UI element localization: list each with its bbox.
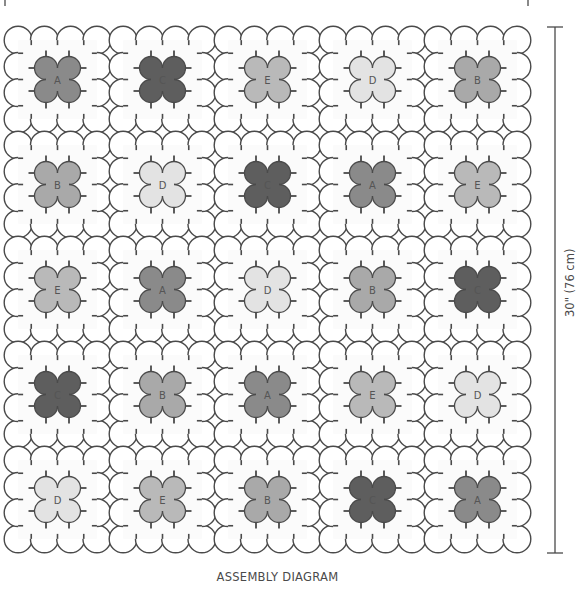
block-letter: C <box>264 180 271 191</box>
block-letter: C <box>54 390 61 401</box>
block-letter: B <box>159 390 166 401</box>
quilt-block-d: D <box>214 236 321 343</box>
block-letter: A <box>54 75 61 86</box>
quilt-block-c: C <box>214 131 321 238</box>
quilt-block-b: B <box>214 446 321 553</box>
block-letter: A <box>264 390 271 401</box>
quilt-block-e: E <box>214 26 321 133</box>
quilt-block-b: B <box>4 131 111 238</box>
block-letter: E <box>159 495 165 506</box>
quilt-block-c: C <box>319 446 426 553</box>
block-letter: D <box>264 285 272 296</box>
quilt-block-c: C <box>4 341 111 448</box>
quilt-block-e: E <box>424 131 531 238</box>
quilt-block-c: C <box>109 26 216 133</box>
block-letter: C <box>474 285 481 296</box>
quilt-block-e: E <box>319 341 426 448</box>
block-letter: B <box>54 180 61 191</box>
quilt-block-e: E <box>4 236 111 343</box>
quilt-block-d: D <box>424 341 531 448</box>
quilt-block-c: C <box>424 236 531 343</box>
block-letter: B <box>264 495 271 506</box>
quilt-block-b: B <box>319 236 426 343</box>
block-letter: B <box>369 285 376 296</box>
block-letter: D <box>54 495 62 506</box>
block-letter: E <box>264 75 270 86</box>
block-letter: D <box>159 180 167 191</box>
block-letter: D <box>474 390 482 401</box>
block-letter: E <box>474 180 480 191</box>
block-letter: E <box>369 390 375 401</box>
quilt-block-a: A <box>424 446 531 553</box>
block-letter: E <box>54 285 60 296</box>
assembly-diagram: ACEDBBDCAEEADBCCBAEDDEBCA <box>0 0 581 590</box>
quilt-block-a: A <box>109 236 216 343</box>
quilt-block-d: D <box>319 26 426 133</box>
quilt-block-b: B <box>109 341 216 448</box>
quilt-block-b: B <box>424 26 531 133</box>
block-letter: D <box>369 75 377 86</box>
quilt-block-e: E <box>109 446 216 553</box>
block-letter: A <box>369 180 376 191</box>
block-letter: A <box>159 285 166 296</box>
block-letter: C <box>369 495 376 506</box>
block-letter: B <box>474 75 481 86</box>
block-letter: A <box>474 495 481 506</box>
dimension-label: 30" (76 cm) <box>563 257 577 317</box>
quilt-block-a: A <box>4 26 111 133</box>
diagram-caption: ASSEMBLY DIAGRAM <box>0 570 555 584</box>
block-letter: C <box>159 75 166 86</box>
quilt-block-a: A <box>214 341 321 448</box>
quilt-block-a: A <box>319 131 426 238</box>
quilt-block-d: D <box>109 131 216 238</box>
quilt-block-d: D <box>4 446 111 553</box>
